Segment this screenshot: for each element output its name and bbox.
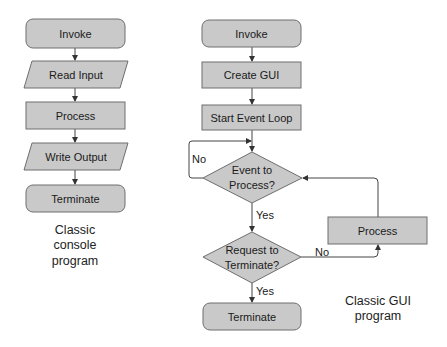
console-process-node: Process	[26, 102, 125, 129]
edge-label-terminate-yes: Yes	[256, 285, 274, 297]
console-read-input-node: Read Input	[24, 61, 128, 88]
gui-create-gui-node: Create GUI	[202, 62, 301, 88]
edge-label-terminate-no: No	[315, 246, 329, 258]
svg-text:Request to: Request to	[225, 244, 278, 256]
console-read-input-label: Read Input	[49, 69, 103, 81]
gui-process-node: Process	[328, 217, 427, 244]
console-process-label: Process	[56, 110, 96, 122]
edge-label-event-yes: Yes	[256, 209, 274, 221]
gui-create-gui-label: Create GUI	[224, 69, 280, 81]
console-flowchart: Invoke Read Input Process Write Output T…	[24, 19, 128, 268]
console-invoke-node: Invoke	[26, 19, 125, 48]
flowchart-canvas: Invoke Read Input Process Write Output T…	[0, 0, 447, 347]
gui-invoke-label: Invoke	[235, 28, 267, 40]
console-caption: Classic console program	[52, 223, 99, 268]
gui-terminate-label: Terminate	[228, 311, 276, 323]
console-terminate-label: Terminate	[51, 193, 99, 205]
gui-event-decision-node: Event to Process?	[203, 152, 302, 203]
gui-flowchart: Invoke Create GUI Start Event Loop Event…	[189, 20, 427, 330]
svg-text:Classic: Classic	[55, 223, 95, 237]
console-write-output-label: Write Output	[45, 151, 107, 163]
svg-text:console: console	[53, 238, 96, 252]
console-terminate-node: Terminate	[26, 185, 125, 212]
console-invoke-label: Invoke	[59, 28, 91, 40]
gui-process-label: Process	[358, 225, 398, 237]
svg-text:Event to: Event to	[232, 164, 272, 176]
gui-terminate-decision-node: Request to Terminate?	[203, 232, 301, 283]
gui-caption: Classic GUI program	[345, 294, 411, 323]
svg-text:Process?: Process?	[229, 179, 275, 191]
gui-terminate-node: Terminate	[203, 303, 301, 330]
svg-text:program: program	[52, 254, 99, 268]
gui-start-event-loop-label: Start Event Loop	[211, 112, 293, 124]
svg-text:Classic GUI: Classic GUI	[345, 294, 411, 308]
console-write-output-node: Write Output	[24, 143, 128, 170]
gui-start-event-loop-node: Start Event Loop	[202, 105, 301, 130]
svg-text:program: program	[355, 309, 402, 323]
edge-label-event-no: No	[192, 153, 206, 165]
svg-text:Terminate?: Terminate?	[225, 259, 279, 271]
gui-invoke-node: Invoke	[202, 20, 301, 47]
